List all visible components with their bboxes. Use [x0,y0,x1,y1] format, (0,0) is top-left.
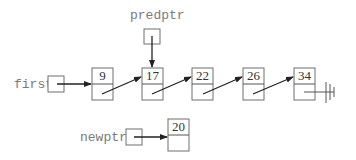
node-value: 17 [146,68,160,83]
node-value: 22 [196,68,209,83]
list-node-22: 22 [192,68,213,100]
linked-list-diagram: predptr first 9 17 22 26 34 [0,0,356,160]
first-label: first [14,77,53,92]
node-value: 34 [298,68,312,83]
list-node-17: 17 [142,68,163,100]
newptr-label: newptr [80,130,127,145]
node-value: 20 [172,119,185,134]
node-value: 9 [99,68,106,83]
predptr-label: predptr [130,8,185,23]
list-node-26: 26 [243,68,264,100]
new-node-20: 20 [168,119,189,151]
list-node-34: 34 [294,68,315,100]
node-value: 26 [247,68,261,83]
list-node-9: 9 [92,68,113,100]
